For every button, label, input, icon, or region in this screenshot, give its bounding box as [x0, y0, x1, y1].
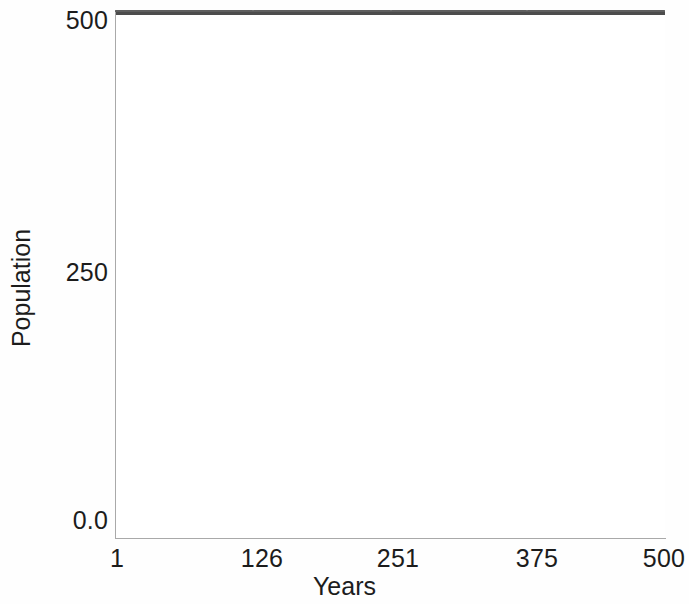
x-tick-375-label: 375 — [516, 545, 558, 572]
x-tick-126-label: 126 — [241, 545, 283, 572]
y-tick-500-label: 500 — [66, 8, 108, 33]
x-tick-500-label: 500 — [643, 545, 685, 572]
y-axis-title-holder: Population — [4, 0, 38, 604]
plot-area — [115, 12, 665, 538]
x-axis-title: Years — [0, 572, 689, 600]
data-line-segment — [115, 10, 253, 15]
y-tick-0-label: 0.0 — [73, 508, 108, 533]
x-axis-spine — [115, 538, 666, 539]
data-line-segment — [527, 10, 665, 15]
x-tick-1-label: 1 — [110, 545, 124, 572]
y-tick-250-label: 250 — [66, 260, 108, 285]
data-line-segment — [391, 10, 528, 15]
x-tick-251-label: 251 — [377, 545, 419, 572]
chart-figure: 500 250 0.0 1 126 251 375 500 Years Popu… — [0, 0, 689, 604]
y-axis-spine — [115, 12, 116, 539]
y-axis-title: Population — [7, 229, 35, 347]
data-line-segment — [253, 10, 391, 15]
